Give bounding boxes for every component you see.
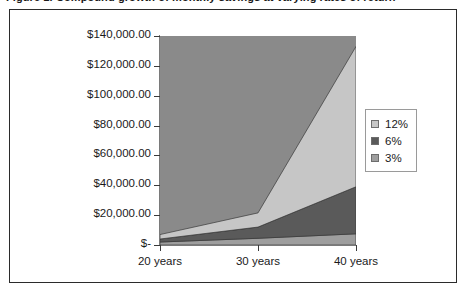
x-axis-tick-mark — [356, 245, 357, 251]
y-axis-tick-mark — [154, 185, 160, 186]
figure-caption-text: Figure 1. Compound growth of monthly sav… — [6, 0, 396, 3]
legend-item-6pct[interactable]: 6% — [371, 132, 408, 149]
stacked-area-svg — [160, 36, 356, 245]
y-axis-tick-mark — [154, 36, 160, 37]
legend-item-label: 6% — [385, 135, 402, 147]
legend-item-12pct[interactable]: 12% — [371, 115, 408, 132]
legend-item-label: 3% — [385, 152, 402, 164]
legend-swatch-icon — [371, 120, 379, 128]
x-axis-tick-label: 30 years — [236, 255, 280, 267]
y-axis-tick-mark — [154, 126, 160, 127]
y-axis-labels: $-$20,000.00$40,000.00$60,000.00$80,000.… — [10, 10, 151, 284]
y-axis-tick-mark — [154, 155, 160, 156]
y-axis-tick-label: $80,000.00 — [19, 118, 151, 130]
plot-area — [160, 36, 356, 245]
figure-caption-strip: Figure 1. Compound growth of monthly sav… — [0, 0, 467, 8]
y-axis-tick-label: $120,000.00 — [19, 58, 151, 70]
y-axis-tick-label: $60,000.00 — [19, 147, 151, 159]
chart-frame: $-$20,000.00$40,000.00$60,000.00$80,000.… — [9, 9, 457, 283]
y-axis-tick-mark — [154, 215, 160, 216]
x-axis-tick-label: 20 years — [138, 255, 182, 267]
legend-item-label: 12% — [385, 118, 408, 130]
legend-swatch-icon — [371, 137, 379, 145]
y-axis-tick-label: $20,000.00 — [19, 207, 151, 219]
legend-item-3pct[interactable]: 3% — [371, 149, 408, 166]
chart-legend[interactable]: 12%6%3% — [365, 109, 417, 172]
y-axis-tick-label: $100,000.00 — [19, 88, 151, 100]
y-axis-tick-label: $140,000.00 — [19, 28, 151, 40]
x-axis-tick-mark — [258, 245, 259, 251]
x-axis-tick-label: 40 years — [334, 255, 378, 267]
x-axis-tick-mark — [160, 245, 161, 251]
y-axis-tick-mark — [154, 66, 160, 67]
y-axis-tick-label: $40,000.00 — [19, 177, 151, 189]
y-axis-tick-mark — [154, 96, 160, 97]
legend-swatch-icon — [371, 154, 379, 162]
y-axis-tick-label: $- — [19, 237, 151, 249]
